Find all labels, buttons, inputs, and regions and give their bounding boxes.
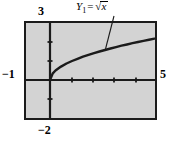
radical-overbar <box>100 1 108 2</box>
annotation-leader-line <box>106 16 115 49</box>
y-max-label: 3 <box>38 5 44 17</box>
radical-expression: √x <box>94 1 106 12</box>
function-annotation: Y1=√x <box>76 1 106 15</box>
x-min-label: −1 <box>2 68 15 80</box>
equals-sign: = <box>86 0 94 12</box>
y-min-label: −2 <box>38 124 51 136</box>
graphing-calculator-figure: 3 −1 5 −2 Y1=√x <box>0 0 171 142</box>
plot-canvas <box>0 0 171 142</box>
x-max-label: 5 <box>160 68 166 80</box>
sqrt-curve <box>50 39 155 80</box>
